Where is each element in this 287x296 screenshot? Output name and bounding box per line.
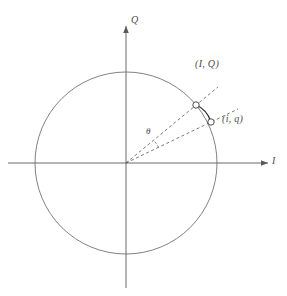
diagram-canvas: Q I (I, Q) (i, q) θ	[0, 0, 287, 296]
axis-vertical-arrowhead	[123, 26, 129, 33]
angle-label-theta: θ	[146, 126, 150, 136]
axis-label-i: I	[272, 155, 275, 166]
point-marker-measured[interactable]	[208, 119, 214, 125]
iq-diagram-svg	[0, 0, 287, 296]
axis-horizontal-arrowhead	[261, 160, 268, 166]
axis-horizontal	[8, 160, 268, 166]
point-marker-ideal[interactable]	[193, 102, 199, 108]
axis-vertical	[123, 26, 129, 288]
angle-arc-theta	[154, 141, 159, 148]
point-label-measured: (i, q)	[222, 113, 243, 124]
axis-label-q: Q	[131, 14, 138, 25]
point-label-ideal: (I, Q)	[195, 58, 219, 69]
